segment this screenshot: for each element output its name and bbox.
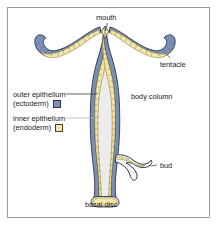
legend-ectoderm-qualifier: (ectoderm) xyxy=(13,99,49,108)
mouth-region xyxy=(101,26,109,38)
legend-endoderm-name: inner epithelium xyxy=(13,114,87,123)
label-tentacle: tentacle xyxy=(160,60,186,69)
legend-endoderm-qualifier: (endoderm) xyxy=(13,123,51,132)
bud xyxy=(116,155,152,181)
tentacle-right xyxy=(109,27,175,58)
label-bud: bud xyxy=(160,161,172,170)
tentacle-left xyxy=(35,27,101,58)
label-basal-disc: basal disc xyxy=(85,200,117,209)
legend-item-endoderm: inner epithelium (endoderm) xyxy=(13,114,87,133)
label-body-column: body column xyxy=(131,92,172,101)
legend-swatch-ectoderm xyxy=(53,100,61,108)
figure-root: mouth tentacle body column bud basal dis… xyxy=(0,0,219,226)
label-mouth: mouth xyxy=(96,13,116,22)
legend-ectoderm-name: outer epithelium xyxy=(13,90,87,99)
legend-swatch-endoderm xyxy=(55,124,63,132)
legend-item-ectoderm: outer epithelium (ectoderm) xyxy=(13,90,87,109)
legend: outer epithelium (ectoderm) inner epithe… xyxy=(13,90,87,137)
